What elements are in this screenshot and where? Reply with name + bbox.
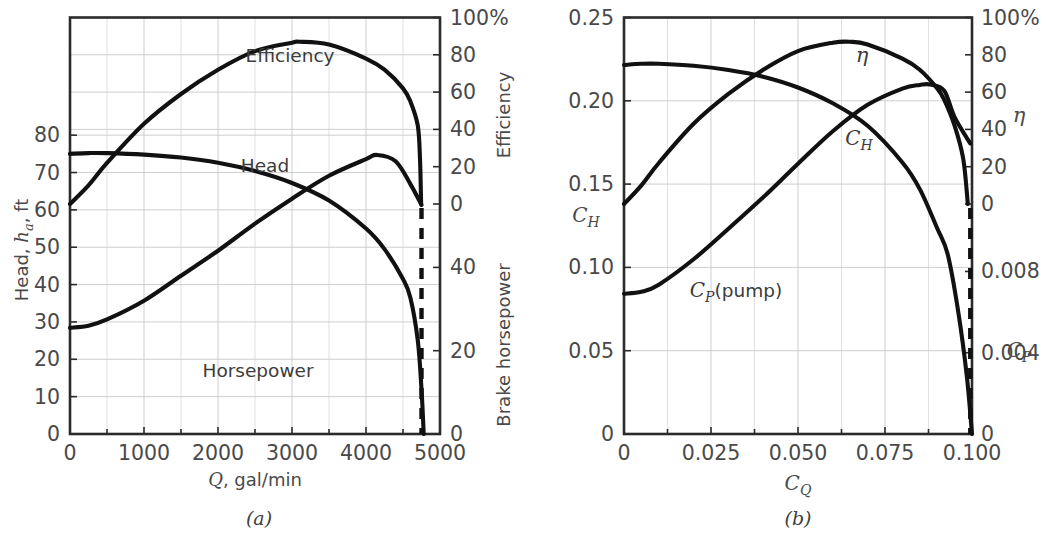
ytick-left-50: 50 <box>34 235 60 259</box>
ytick-left-0.20: 0.20 <box>568 89 614 113</box>
ytick-right-upper-60: 60 <box>450 80 476 104</box>
panel-a-dimensional-curves: 0100020003000400050000102030405060708002… <box>0 0 524 537</box>
panel-a-svg: 0100020003000400050000102030405060708002… <box>0 0 524 537</box>
panel-a-label-efficiency: Efficiency <box>245 45 334 66</box>
xtick-0: 0 <box>617 441 630 465</box>
ytick-left-0: 0 <box>47 422 60 446</box>
panel-b-yaxis-eta-title: η <box>1013 103 1026 127</box>
xtick-0: 0 <box>63 441 76 465</box>
ytick-right-lower-20: 20 <box>450 339 476 363</box>
ytick-right-lower-0: 0 <box>450 422 463 446</box>
ytick-left-60: 60 <box>34 198 60 222</box>
ytick-right-upper-0: 0 <box>450 192 463 216</box>
ytick-right-upper-100%: 100% <box>450 6 509 30</box>
ytick-left-30: 30 <box>34 310 60 334</box>
yleft-title-post: , ft <box>11 199 32 224</box>
ytick-right-upper-60: 60 <box>981 80 1007 104</box>
panel-a-yaxis-bhp-title: Brake horsepower <box>493 263 514 427</box>
ytick-left-40: 40 <box>34 273 60 297</box>
xaxis-symbol-Q: Q <box>208 469 223 490</box>
ytick-right-lower-0: 0 <box>981 422 994 446</box>
ytick-right-upper-20: 20 <box>981 155 1007 179</box>
label-ch-symbol: C <box>845 126 860 150</box>
xtick-3000: 3000 <box>266 441 318 465</box>
ytick-left-80: 80 <box>34 123 60 147</box>
ytick-left-0.05: 0.05 <box>568 339 614 363</box>
yleft-title-symbol: h <box>11 231 32 243</box>
panel-b-svg: 00.0250.0500.0750.10000.050.100.150.200.… <box>524 0 1048 537</box>
panel-b-label-eta: η <box>856 43 869 67</box>
curve-head <box>70 153 424 434</box>
ytick-right-lower-0.008: 0.008 <box>981 259 1040 283</box>
ytick-right-upper-20: 20 <box>450 155 476 179</box>
panel-a-label-head: Head <box>241 155 289 176</box>
panel-b-label-ch: CH <box>845 126 873 153</box>
xtick-0.025: 0.025 <box>682 441 741 465</box>
ytick-right-upper-80: 80 <box>981 43 1007 67</box>
ytick-left-20: 20 <box>34 347 60 371</box>
panel-a-label-horsepower: Horsepower <box>202 360 313 381</box>
yright-symbol-C: C <box>1007 338 1022 362</box>
yleft-symbol-subscript-H: H <box>587 214 601 230</box>
panel-a-caption: (a) <box>246 507 272 529</box>
yleft-title-subscript: a <box>21 223 36 231</box>
label-ch-subscript: H <box>860 137 874 153</box>
xtick-0.075: 0.075 <box>856 441 915 465</box>
xtick-4000: 4000 <box>340 441 392 465</box>
ytick-right-upper-100%: 100% <box>981 6 1040 30</box>
xtick-1000: 1000 <box>118 441 170 465</box>
xtick-0.050: 0.050 <box>769 441 828 465</box>
panel-a-yaxis-left-title: Head, ha, ft <box>11 199 36 301</box>
panel-a-xaxis-title: Q, gal/min <box>208 469 302 490</box>
panel-b-label-cp: CP(pump) <box>690 278 782 305</box>
curve-horsepower <box>70 155 422 328</box>
ytick-left-70: 70 <box>34 161 60 185</box>
panel-b-xaxis-title: CQ <box>785 471 812 498</box>
ytick-right-upper-80: 80 <box>450 43 476 67</box>
panel-a-yaxis-efficiency-title: Efficiency <box>493 71 514 158</box>
xaxis-symbol-C: C <box>785 471 800 495</box>
ytick-left-0.10: 0.10 <box>568 255 614 279</box>
label-cp-symbol: C <box>690 278 705 302</box>
label-cp-rest: (pump) <box>715 280 783 301</box>
xaxis-units: , gal/min <box>223 469 302 490</box>
panel-b-yaxis-left-title: CH <box>572 203 600 230</box>
label-cp-subscript: P <box>704 289 715 305</box>
panel-b-gridlines <box>624 18 972 435</box>
ytick-right-lower-40: 40 <box>450 255 476 279</box>
ytick-right-upper-40: 40 <box>450 117 476 141</box>
panel-b-caption: (b) <box>785 507 812 529</box>
ytick-left-0.25: 0.25 <box>568 6 614 30</box>
xaxis-symbol-subscript-Q: Q <box>800 482 812 498</box>
ytick-left-0: 0 <box>601 422 614 446</box>
xtick-2000: 2000 <box>192 441 244 465</box>
panel-b-dimensionless-curves: 00.0250.0500.0750.10000.050.100.150.200.… <box>524 0 1048 537</box>
yleft-symbol-C: C <box>572 203 587 227</box>
ytick-left-10: 10 <box>34 385 60 409</box>
yright-symbol-subscript-P: P <box>1021 349 1032 365</box>
ytick-right-upper-40: 40 <box>981 117 1007 141</box>
yleft-title-pre: Head, <box>11 243 32 302</box>
pump-performance-figure: 0100020003000400050000102030405060708002… <box>0 0 1048 537</box>
panel-a-tick-labels: 0100020003000400050000102030405060708002… <box>34 6 509 466</box>
ytick-left-0.15: 0.15 <box>568 172 614 196</box>
ytick-right-upper-0: 0 <box>981 192 994 216</box>
